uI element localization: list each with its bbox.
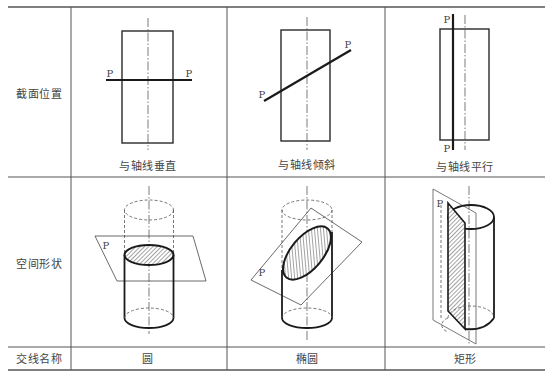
section-view-perpendicular [106, 18, 192, 150]
section-view-inclined [264, 17, 351, 150]
plane-label-p: P [443, 143, 450, 154]
plane-label-p: P [102, 240, 109, 251]
plane-label-p: P [258, 267, 265, 278]
row-header-intersection-name: 交线名称 [16, 350, 62, 366]
intersection-name-ellipse: 椭圆 [296, 350, 319, 366]
cylinder-section-table [0, 0, 551, 378]
caption-perpendicular: 与轴线垂直 [119, 157, 177, 173]
plane-label-p: P [258, 89, 265, 100]
intersection-name-circle: 圆 [142, 350, 154, 366]
section-view-parallel [440, 14, 489, 150]
plane-label-p: P [106, 68, 113, 79]
spatial-view-rectangle [433, 186, 494, 344]
plane-label-p: P [344, 39, 351, 50]
caption-parallel: 与轴线平行 [436, 158, 494, 174]
caption-inclined: 与轴线倾斜 [278, 156, 336, 172]
spatial-view-circle [95, 186, 206, 334]
plane-label-p: P [185, 68, 192, 79]
plane-label-p: P [443, 14, 450, 25]
intersection-name-rectangle: 矩形 [454, 350, 477, 366]
row-header-spatial-shape: 空间形状 [16, 255, 62, 271]
spatial-view-ellipse [251, 186, 362, 340]
plane-label-p: P [436, 198, 443, 209]
row-header-section-position: 截面位置 [16, 85, 62, 101]
